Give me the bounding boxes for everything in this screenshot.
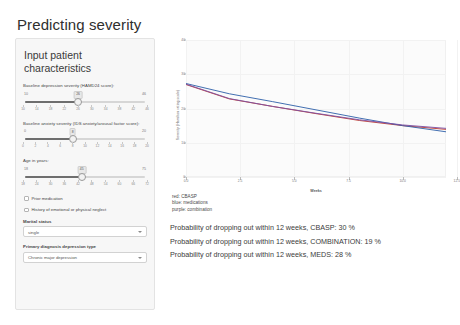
slider-handle[interactable] xyxy=(78,173,86,181)
slider-tick-labels: 18243036424854606672 xyxy=(23,182,147,189)
slider-tick-label: 14 xyxy=(108,144,112,148)
slider-depression-severity[interactable]: Baseline depression severity (HAMD24 sco… xyxy=(23,83,147,114)
chart-y-tick-label: 40 xyxy=(181,38,185,42)
slider-min-label: 18 xyxy=(24,167,28,171)
slider-tick-label: 8 xyxy=(72,144,74,148)
slider-tick-labels: 10141822263034384246 xyxy=(23,107,147,114)
slider-age[interactable]: Age in years: 18 75 45 18243036424854606… xyxy=(23,158,147,189)
slider-tick-label: 18 xyxy=(133,144,137,148)
slider-track[interactable] xyxy=(23,173,147,182)
select-diagnosis-type[interactable]: Primary diagnosis depression type Chroni… xyxy=(23,244,147,263)
select-diagnosis-type-value: Chronic major depression xyxy=(28,255,77,260)
slider-max-label: 46 xyxy=(142,92,146,96)
slider-anxiety-severity-range: 0 20 8 xyxy=(23,128,147,135)
chevron-down-icon[interactable] xyxy=(138,257,142,259)
prediction-line: Probability of dropping out within 12 we… xyxy=(170,248,450,262)
slider-max-label: 75 xyxy=(142,167,146,171)
slider-tick-label: 18 xyxy=(49,107,53,111)
slider-tick-label: 22 xyxy=(62,107,66,111)
checkbox-icon[interactable] xyxy=(24,196,29,201)
chart-series-layer xyxy=(186,40,446,177)
chart-y-tick-label: 10 xyxy=(181,141,185,145)
slider-tick-label: 16 xyxy=(120,144,124,148)
slider-tick-label: 6 xyxy=(59,144,61,148)
slider-tick-label: 0 xyxy=(22,144,24,148)
slider-tick-label: 4 xyxy=(47,144,49,148)
chart-y-tick-label: 30 xyxy=(181,72,185,76)
slider-anxiety-severity[interactable]: Baseline anxiety severity (IDS anxiety/a… xyxy=(23,121,147,152)
slider-tick-label: 20 xyxy=(145,144,149,148)
slider-depression-severity-range: 10 46 26 xyxy=(23,91,147,98)
chart-x-axis-label: Weeks xyxy=(186,189,446,193)
slider-tick-label: 42 xyxy=(131,107,135,111)
select-marital-status-control[interactable]: single xyxy=(23,226,147,237)
checkbox-icon[interactable] xyxy=(24,208,29,213)
chart-canvas: 0102030400.02.55.07.510.012.5 xyxy=(186,40,446,177)
panel-heading: Input patient characteristics xyxy=(24,49,147,74)
chart-gridline xyxy=(186,177,446,178)
chart-gridline xyxy=(457,40,458,177)
slider-tick-label: 14 xyxy=(35,107,39,111)
slider-tick-label: 46 xyxy=(145,107,149,111)
chevron-down-icon[interactable] xyxy=(138,231,142,233)
slider-tick-labels: 02468101214161820 xyxy=(23,144,147,151)
slider-fill xyxy=(25,176,82,178)
input-panel: Input patient characteristics Baseline d… xyxy=(15,38,155,310)
slider-tick-label: 42 xyxy=(76,182,80,186)
slider-depression-severity-label: Baseline depression severity (HAMD24 sco… xyxy=(23,83,147,89)
slider-tick-label: 30 xyxy=(90,107,94,111)
select-diagnosis-type-control[interactable]: Chronic major depression xyxy=(23,252,147,263)
page-title: Predicting severity xyxy=(17,16,141,33)
checkbox-prior-medication-label: Prior medication xyxy=(32,196,63,202)
chart-y-axis-label: Severity (Hamilton rating scale) xyxy=(176,75,180,155)
slider-tick-label: 38 xyxy=(118,107,122,111)
checkbox-neglect-history[interactable]: History of emotional or physical neglect xyxy=(24,207,147,213)
slider-track[interactable] xyxy=(23,98,147,107)
slider-min-label: 10 xyxy=(24,92,28,96)
slider-tick-label: 34 xyxy=(104,107,108,111)
slider-max-label: 20 xyxy=(142,129,146,133)
chart-x-tick-label: 10.0 xyxy=(399,179,405,183)
checkbox-neglect-history-label: History of emotional or physical neglect xyxy=(32,207,107,213)
slider-anxiety-severity-label: Baseline anxiety severity (IDS anxiety/a… xyxy=(23,121,147,127)
chart-x-tick-label: 0.0 xyxy=(184,179,189,183)
slider-tick-label: 72 xyxy=(145,182,149,186)
slider-tick-label: 26 xyxy=(76,107,80,111)
slider-age-label: Age in years: xyxy=(23,158,147,164)
slider-tick-label: 2 xyxy=(34,144,36,148)
slider-tick-label: 10 xyxy=(21,107,25,111)
select-diagnosis-type-label: Primary diagnosis depression type xyxy=(23,244,147,250)
slider-tick-label: 24 xyxy=(35,182,39,186)
chart-x-tick-label: 12.5 xyxy=(454,179,460,183)
chart-series-combination xyxy=(186,84,446,128)
prediction-output: Probability of dropping out within 12 we… xyxy=(170,221,450,262)
slider-tick-label: 10 xyxy=(83,144,87,148)
checkbox-prior-medication[interactable]: Prior medication xyxy=(24,196,147,202)
slider-tick-label: 60 xyxy=(118,182,122,186)
slider-tick-label: 12 xyxy=(96,144,100,148)
slider-fill xyxy=(25,101,78,103)
slider-age-range: 18 75 45 xyxy=(23,166,147,173)
chart-x-tick-label: 5.0 xyxy=(292,179,297,183)
slider-tick-label: 54 xyxy=(104,182,108,186)
legend-item: purple: combination xyxy=(172,207,212,213)
slider-tick-label: 30 xyxy=(49,182,53,186)
chart-series-medications xyxy=(186,84,446,132)
legend-item: blue: medications xyxy=(172,200,212,206)
chart-y-tick-label: 20 xyxy=(181,107,185,111)
slider-tick-label: 18 xyxy=(21,182,25,186)
select-marital-status-value: single xyxy=(28,230,39,235)
select-marital-status[interactable]: Marital status single xyxy=(23,219,147,238)
slider-tick-label: 48 xyxy=(90,182,94,186)
slider-fill xyxy=(25,138,73,140)
chart-x-tick-label: 7.5 xyxy=(346,179,351,183)
slider-tick-label: 66 xyxy=(131,182,135,186)
chart-x-tick-label: 2.5 xyxy=(238,179,243,183)
severity-chart: Severity (Hamilton rating scale) Weeks 0… xyxy=(166,36,448,193)
slider-tick-label: 36 xyxy=(62,182,66,186)
chart-series-cbasp xyxy=(186,85,446,130)
chart-legend: red: CBASPblue: medicationspurple: combi… xyxy=(172,194,212,213)
select-marital-status-label: Marital status xyxy=(23,219,147,225)
prediction-line: Probability of dropping out within 12 we… xyxy=(170,221,450,235)
